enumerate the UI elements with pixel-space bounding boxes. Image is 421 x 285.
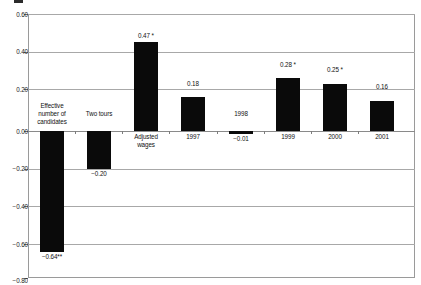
gridline-0.40 xyxy=(28,52,415,53)
category-label-1998: 1998 xyxy=(219,110,263,118)
xtick-mark-1 xyxy=(75,131,76,134)
bar-value-effective-number-of-candidates: −0.64** xyxy=(30,253,74,260)
gridline--0.60 xyxy=(28,244,415,245)
bar-value-1999: 0.28 * xyxy=(266,61,310,68)
bar-value-2001: 0.16 xyxy=(360,83,404,90)
category-label-two-tours: Two tours xyxy=(77,110,121,118)
ytick-label--0.40: −0.40 xyxy=(0,203,28,210)
bar-1997 xyxy=(181,97,205,131)
category-label-2001: 2001 xyxy=(360,133,404,141)
bar-value-2000: 0.25 * xyxy=(313,66,357,73)
ytick-label--0.60: −0.60 xyxy=(0,241,28,248)
category-label-line1: Adjusted xyxy=(134,133,158,140)
xtick-mark-4 xyxy=(217,131,218,134)
gridline--0.40 xyxy=(28,206,415,207)
bar-adjusted-wages xyxy=(134,42,158,131)
category-label-adjusted-wages: Adjusted wages xyxy=(124,133,168,149)
xtick-mark-6 xyxy=(311,131,312,134)
category-label-line2: wages xyxy=(137,141,155,148)
category-label-1997: 1997 xyxy=(171,133,215,141)
bar-2000 xyxy=(323,84,347,131)
ytick-label-0.20: 0.20 xyxy=(0,86,28,93)
category-label-line3: candidates xyxy=(37,118,66,125)
gridline-0.20 xyxy=(28,89,415,90)
category-label-1999: 1999 xyxy=(266,133,310,141)
ytick-label-0.00: 0.00 xyxy=(0,128,28,135)
bar-2001 xyxy=(370,101,394,131)
bar-value-two-tours: −0.20 xyxy=(77,170,121,177)
bar-value-1997: 0.18 xyxy=(171,80,215,87)
bar-chart: 0.60 0.40 0.20 0.00 −0.20 −0.40 −0.60 −0… xyxy=(0,0,421,285)
xtick-mark-3 xyxy=(169,131,170,134)
category-label-2000: 2000 xyxy=(313,133,357,141)
xtick-mark-7 xyxy=(358,131,359,134)
ytick-label-0.60: 0.60 xyxy=(0,11,28,18)
category-label-line2: number of xyxy=(38,110,65,117)
clipped-text-fragment xyxy=(14,0,23,3)
xtick-mark-5 xyxy=(264,131,265,134)
category-label-effective-number-of-candidates: Effective number of candidates xyxy=(30,102,74,127)
xtick-mark-2 xyxy=(122,131,123,134)
bar-value-1998: −0.01 xyxy=(219,135,263,142)
gridline-0.60 xyxy=(28,14,415,15)
bar-1999 xyxy=(276,78,300,131)
ytick-label--0.20: −0.20 xyxy=(0,165,28,172)
bar-effective-number-of-candidates xyxy=(40,131,64,252)
ytick-label-0.40: 0.40 xyxy=(0,48,28,55)
category-label-line1: Effective xyxy=(40,102,63,109)
bar-two-tours xyxy=(87,131,111,169)
ytick-label--0.80: −0.80 xyxy=(0,277,28,285)
bar-1998 xyxy=(229,131,253,134)
bar-value-adjusted-wages: 0.47 * xyxy=(124,32,168,39)
